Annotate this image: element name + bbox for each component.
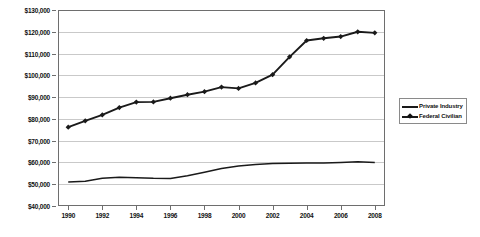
x-axis-tick-label: 1996 [164, 212, 178, 219]
data-point-marker [66, 125, 71, 130]
y-axis-tick-label: $130,000 [24, 7, 50, 14]
legend-item-federal-civilian: Federal Civilian [402, 111, 463, 121]
y-axis-tick-label: $40,000 [28, 203, 50, 210]
y-axis-tick [52, 10, 56, 11]
y-axis-tick [52, 184, 56, 185]
data-point-marker [338, 34, 343, 39]
chart-legend: Private Industry Federal Civilian [399, 98, 467, 124]
y-axis-tick [52, 141, 56, 142]
data-point-marker [321, 36, 326, 41]
legend-label-private-industry: Private Industry [419, 103, 463, 109]
series-line-federal-civilian [68, 32, 375, 127]
x-axis-tick [136, 206, 137, 210]
data-point-marker [134, 100, 139, 105]
x-axis-tick-label: 1990 [61, 212, 75, 219]
y-axis-tick-label: $120,000 [24, 28, 50, 35]
y-axis-tick [52, 54, 56, 55]
y-axis-tick [52, 97, 56, 98]
data-point-marker [151, 99, 156, 104]
x-axis-tick [68, 206, 69, 210]
x-axis: 1990199219941996199820002002200420062008 [58, 206, 385, 230]
legend-diamond-swatch-icon [402, 112, 418, 121]
y-axis-tick-label: $100,000 [24, 72, 50, 79]
y-axis-tick [52, 32, 56, 33]
series-layer [58, 10, 385, 206]
y-axis-tick-label: $80,000 [28, 115, 50, 122]
y-axis-tick [52, 75, 56, 76]
x-axis-tick [102, 206, 103, 210]
data-point-marker [83, 118, 88, 123]
legend-label-federal-civilian: Federal Civilian [419, 113, 462, 119]
x-axis-tick-label: 2004 [300, 212, 314, 219]
x-axis-tick-label: 1998 [198, 212, 212, 219]
x-axis-tick [273, 206, 274, 210]
data-point-marker [219, 84, 224, 89]
data-point-marker [355, 29, 360, 34]
y-axis-tick-label: $110,000 [25, 50, 50, 57]
legend-line-swatch-icon [402, 102, 418, 111]
data-point-marker [372, 30, 377, 35]
y-axis-tick-label: $60,000 [28, 159, 50, 166]
x-axis-tick-label: 2008 [368, 212, 382, 219]
y-axis-tick-label: $50,000 [28, 181, 50, 188]
data-point-marker [202, 89, 207, 94]
x-axis-tick [170, 206, 171, 210]
y-axis-tick [52, 206, 56, 207]
x-axis-tick [375, 206, 376, 210]
x-axis-tick-label: 2000 [232, 212, 246, 219]
y-axis-tick [52, 162, 56, 163]
data-point-marker [185, 92, 190, 97]
x-axis-tick [341, 206, 342, 210]
x-axis-tick [307, 206, 308, 210]
data-point-marker [236, 86, 241, 91]
y-axis-tick-label: $90,000 [28, 94, 50, 101]
x-axis-tick-label: 1994 [130, 212, 144, 219]
legend-item-private-industry: Private Industry [402, 101, 463, 111]
y-axis-tick-label: $70,000 [28, 137, 50, 144]
x-axis-tick [239, 206, 240, 210]
figure-container: $40,000$50,000$60,000$70,000$80,000$90,0… [0, 0, 480, 237]
x-axis-tick [204, 206, 205, 210]
x-axis-tick-label: 1992 [95, 212, 109, 219]
y-axis-tick [52, 119, 56, 120]
y-axis: $40,000$50,000$60,000$70,000$80,000$90,0… [0, 10, 56, 206]
x-axis-tick-label: 2002 [266, 212, 280, 219]
data-point-marker [168, 96, 173, 101]
series-line-private-industry [68, 162, 375, 182]
x-axis-tick-label: 2006 [334, 212, 348, 219]
